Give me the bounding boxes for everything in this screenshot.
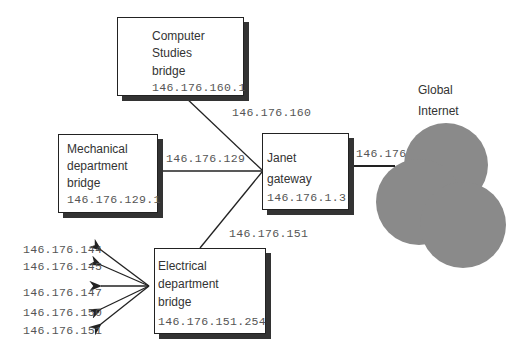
cs-label-1: Computer: [152, 30, 205, 42]
subnet-label: 146.176.144: [23, 244, 102, 256]
elec-label-1: Electrical: [158, 260, 207, 272]
cs-label-2: Studies: [152, 47, 192, 59]
janet-ip: 146.176.1.3: [267, 192, 346, 204]
subnet-label: 146.176.147: [23, 287, 102, 299]
elec-ip: 146.176.151.254: [158, 316, 266, 328]
mech-label-1: Mechanical: [67, 143, 128, 155]
subnet-label: 146.176.151: [23, 325, 102, 337]
link-label-elec: 146.176.151: [229, 228, 308, 240]
elec-label-2: department: [158, 278, 219, 290]
mech-label-3: bridge: [67, 177, 100, 189]
cs-label-3: bridge: [152, 65, 185, 77]
internet-cloud-icon: [376, 123, 506, 268]
link-label-mech: 146.176.129: [166, 153, 245, 165]
network-diagram: Computer Studies bridge 146.176.160.1 Me…: [0, 0, 530, 355]
subnet-label: 146.176.145: [23, 261, 102, 273]
mech-ip: 146.176.129.1: [67, 194, 161, 206]
link-label-cs: 146.176.160: [232, 107, 311, 119]
cs-ip: 146.176.160.1: [152, 82, 246, 94]
janet-label-2: gateway: [267, 173, 312, 185]
mech-label-2: department: [67, 160, 128, 172]
elec-label-3: bridge: [158, 296, 191, 308]
link-label-internet: 146.176: [356, 148, 406, 160]
internet-label-2: Internet: [418, 105, 459, 117]
janet-label-1: Janet: [267, 152, 296, 164]
subnet-label: 146.176.150: [23, 307, 102, 319]
internet-label-1: Global: [418, 84, 453, 96]
